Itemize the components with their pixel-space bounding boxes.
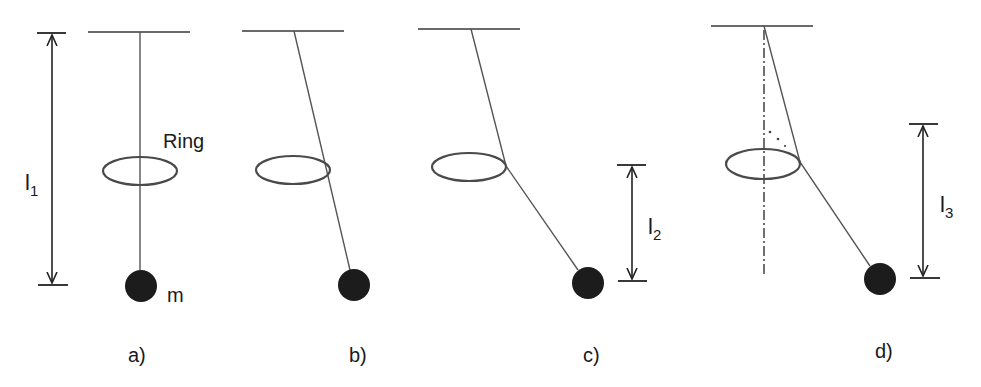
dimension-l3-label: l3 — [940, 192, 953, 221]
ring-d — [726, 149, 800, 179]
dimension-l3: l3 — [909, 124, 953, 278]
angle-arc-dot — [769, 131, 772, 134]
panel-c: l2 c) — [418, 29, 661, 366]
string-d — [764, 26, 870, 266]
dimension-l1: l1 — [25, 33, 68, 285]
mass-b — [338, 269, 370, 301]
ring-b — [256, 156, 330, 184]
angle-arc-dot — [784, 145, 786, 147]
panel-d-label: d) — [875, 340, 893, 362]
dimension-l2: l2 — [617, 165, 661, 281]
ring-c — [432, 153, 506, 181]
dimension-l2-label: l2 — [648, 214, 661, 243]
panel-a-label: a) — [128, 344, 146, 366]
mass-a — [125, 270, 157, 302]
ring-label: Ring — [163, 130, 204, 152]
dimension-l1-label: l1 — [25, 170, 38, 199]
panel-b: b) — [242, 31, 370, 366]
pendulum-ring-diagram: Ring m l1 a) b) l2 — [0, 0, 981, 387]
string-c — [471, 29, 578, 270]
mass-c — [572, 267, 604, 299]
mass-label: m — [167, 284, 184, 306]
panel-b-label: b) — [349, 344, 367, 366]
mass-d — [864, 263, 896, 295]
string-b — [294, 31, 350, 270]
panel-d: l3 d) — [711, 26, 953, 362]
panel-a: Ring m l1 a) — [25, 32, 204, 366]
panel-c-label: c) — [583, 344, 600, 366]
angle-arc-dot — [777, 138, 780, 141]
